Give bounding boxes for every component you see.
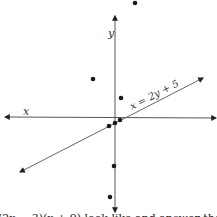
line-equation-label: x = 2y + 5 bbox=[128, 78, 181, 112]
data-point bbox=[107, 124, 112, 129]
data-point bbox=[113, 121, 118, 126]
caption-text: (2x − 3)(x + 9) look like and answer the bbox=[0, 212, 217, 217]
data-point bbox=[108, 195, 113, 200]
data-point bbox=[133, 1, 138, 6]
sloped-line bbox=[20, 78, 203, 172]
data-point bbox=[112, 164, 117, 169]
data-point bbox=[119, 96, 124, 101]
x-axis bbox=[5, 117, 216, 118]
x-axis-label: x bbox=[23, 105, 30, 118]
data-point bbox=[118, 118, 123, 123]
data-point bbox=[91, 77, 96, 82]
coordinate-diagram: y x x = 2y + 5 (2x − 3)(x + 9) look like… bbox=[0, 0, 217, 217]
y-axis-label: y bbox=[107, 27, 115, 40]
